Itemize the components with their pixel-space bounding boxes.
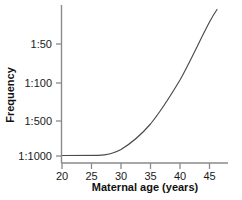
x-tick-label-20: 20 (56, 171, 68, 182)
x-tick-label-45: 45 (203, 171, 215, 182)
x-axis-title: Maternal age (years) (92, 182, 198, 193)
frequency-curve (63, 10, 218, 156)
y-axis-ticks (56, 44, 62, 156)
y-tick-label-1-1000: 1:1000 (8, 151, 52, 162)
y-tick-label-1-50: 1:50 (8, 39, 52, 50)
x-axis-ticks (62, 163, 210, 169)
chart-figure: 1:50 1:100 1:500 1:1000 20 25 30 35 40 4… (0, 0, 242, 200)
y-axis-title: Frequency (5, 67, 16, 123)
